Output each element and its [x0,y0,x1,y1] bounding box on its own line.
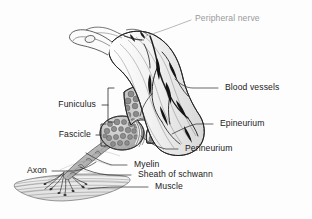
label-sheath-of-schwann: Sheath of schwann [138,170,213,179]
label-blood-vessels: Blood vessels [225,83,279,92]
label-funiculus: Funiculus [0,100,96,109]
label-peripheral-nerve: Peripheral nerve [195,14,260,23]
label-perineurium: Perineurium [185,144,232,153]
label-axon: Axon [0,166,47,175]
label-fascicle: Fascicle [0,130,91,139]
label-muscle: Muscle [155,182,183,191]
bracket-funiculus [102,88,114,122]
label-myelin: Myelin [134,160,159,169]
diagram-canvas: Peripheral nerve Blood vessels Epineuriu… [0,0,312,219]
label-epineurium: Epineurium [220,119,264,128]
